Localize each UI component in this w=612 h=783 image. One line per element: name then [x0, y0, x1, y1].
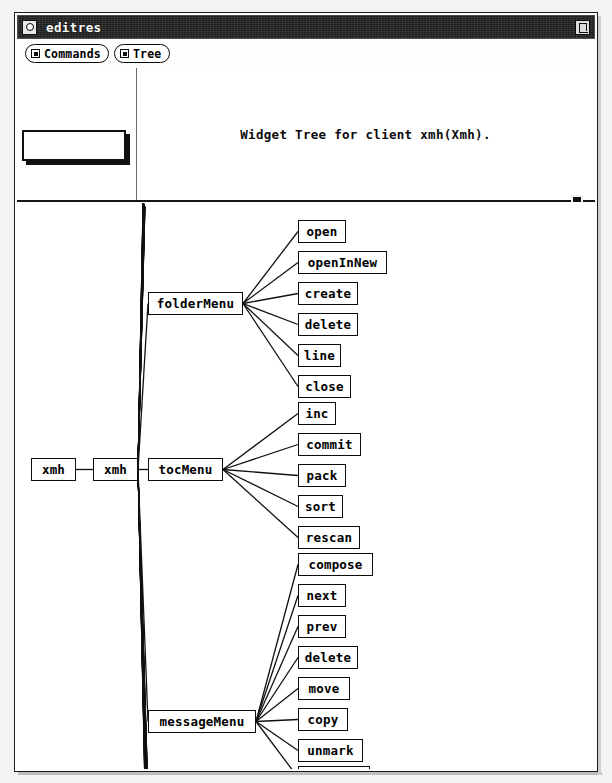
tree-node-sort[interactable]: sort: [298, 495, 343, 518]
tree-node-label: open: [307, 224, 338, 239]
menu-button-commands[interactable]: Commands: [25, 44, 109, 63]
tree-edge-messageMenu-copy: [256, 720, 298, 722]
window-title: editres: [46, 20, 101, 35]
tree-node-rescan[interactable]: rescan: [298, 526, 360, 549]
window-menu-icon[interactable]: [22, 20, 37, 35]
menu-indicator-icon: [31, 49, 40, 58]
tree-node-openInNew[interactable]: openInNew: [298, 251, 387, 274]
tree-node-label: prev: [307, 619, 338, 634]
tree-node-label: next: [307, 588, 338, 603]
title-bar[interactable]: editres: [17, 15, 595, 39]
tree-node-xmh-shell[interactable]: xmh: [93, 458, 138, 481]
tree-node-label: delete: [305, 650, 351, 665]
tree-node-label: line: [304, 348, 335, 363]
menu-button-tree[interactable]: Tree: [114, 44, 170, 63]
tree-node-commit[interactable]: commit: [298, 433, 361, 456]
screen: editres Commands Tree Widget Tree for cl…: [0, 0, 612, 783]
resource-name-field-shadow-right: [126, 134, 130, 165]
tree-node-open[interactable]: open: [298, 220, 346, 243]
resource-name-field[interactable]: [22, 130, 126, 161]
tree-node-line[interactable]: line: [298, 344, 341, 367]
tree-node-label: xmh: [104, 462, 127, 477]
menu-button-commands-label: Commands: [44, 47, 101, 61]
tree-node-unmark[interactable]: unmark: [298, 739, 363, 762]
menu-indicator-icon: [120, 49, 129, 58]
tree-edge-tocMenu-commit: [223, 445, 298, 470]
menu-button-tree-label: Tree: [133, 47, 162, 61]
tree-node-label: tocMenu: [158, 462, 212, 477]
tree-node-label: pack: [307, 468, 338, 483]
widget-tree-canvas[interactable]: xmhxmhfolderMenutocMenumessageMenuopenop…: [17, 202, 595, 769]
tree-node-messageMenu[interactable]: messageMenu: [148, 710, 256, 733]
tree-node-label: sort: [305, 499, 336, 514]
top-pane: Widget Tree for client xmh(Xmh).: [17, 68, 595, 200]
tree-edge-messageMenu-viewNew: [256, 722, 298, 770]
tree-node-tocMenu[interactable]: tocMenu: [148, 458, 223, 481]
tree-node-create[interactable]: create: [298, 282, 358, 305]
tree-node-label: folderMenu: [157, 296, 234, 311]
tree-node-folderMenu[interactable]: folderMenu: [148, 292, 243, 315]
menu-bar: Commands Tree: [17, 40, 595, 67]
tree-node-inc[interactable]: inc: [298, 402, 336, 425]
window-menu-dot-icon: [26, 23, 34, 31]
window-resize-icon[interactable]: [575, 20, 590, 35]
tree-edge-tocMenu-rescan: [223, 470, 298, 538]
tree-edge-folderMenu-create: [243, 294, 298, 304]
tree-edge-tocMenu-inc: [223, 414, 298, 470]
tree-edge-messageMenu-move: [256, 689, 298, 722]
tree-edge-messageMenu-compose: [256, 565, 298, 722]
tree-node-label: create: [305, 286, 351, 301]
tree-node-label: delete: [305, 317, 351, 332]
tree-node-label: copy: [308, 712, 339, 727]
tree-node-prev[interactable]: prev: [298, 615, 346, 638]
tree-edge-folderMenu-open: [243, 232, 298, 304]
tree-node-label: rescan: [306, 530, 352, 545]
tree-edge-messageMenu-unmark: [256, 722, 298, 751]
tree-node-label: close: [305, 379, 344, 394]
tree-node-label: unmark: [307, 743, 353, 758]
tree-node-compose[interactable]: compose: [298, 553, 373, 576]
tree-node-label: inc: [305, 406, 328, 421]
window-drop-shadow-bottom: [18, 772, 602, 775]
tree-node-close[interactable]: close: [298, 375, 351, 398]
tree-node-next[interactable]: next: [298, 584, 346, 607]
window-drop-shadow-right: [598, 16, 601, 775]
tree-edge-folderMenu-delete1: [243, 304, 298, 325]
tree-node-label: openInNew: [308, 255, 378, 270]
tree-edge-messageMenu-next: [256, 596, 298, 722]
tree-node-viewNew[interactable]: viewNew: [298, 766, 370, 769]
tree-edge-folderMenu-openInNew: [243, 263, 298, 304]
tree-node-label: compose: [308, 557, 362, 572]
widget-tree-heading: Widget Tree for client xmh(Xmh).: [136, 68, 595, 200]
tree-node-pack[interactable]: pack: [298, 464, 346, 487]
tree-node-label: xmh: [42, 462, 65, 477]
tree-node-xmh-root[interactable]: xmh: [31, 458, 76, 481]
tree-node-move[interactable]: move: [298, 677, 350, 700]
editres-window: editres Commands Tree Widget Tree for cl…: [14, 12, 598, 772]
tree-edge-messageMenu-delete2: [256, 658, 298, 722]
tree-node-delete2[interactable]: delete: [298, 646, 358, 669]
tree-node-label: messageMenu: [160, 714, 245, 729]
tree-node-label: commit: [306, 437, 352, 452]
tree-edge-folderMenu-line: [243, 304, 298, 356]
tree-node-copy[interactable]: copy: [298, 708, 348, 731]
tree-node-delete1[interactable]: delete: [298, 313, 358, 336]
tree-node-label: move: [309, 681, 340, 696]
tree-edge-folderMenu-close: [243, 304, 298, 387]
resource-name-field-shadow: [26, 161, 130, 165]
